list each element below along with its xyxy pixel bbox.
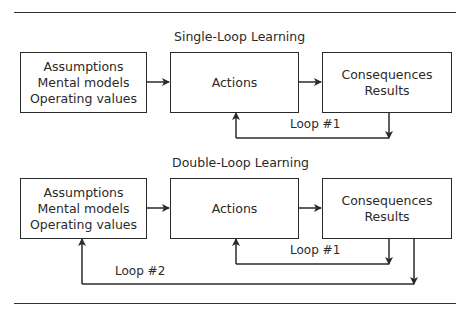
double-loop1-label: Loop #1 — [290, 243, 340, 257]
double-loop2-label: Loop #2 — [115, 264, 165, 278]
box-line: Operating values — [30, 217, 137, 233]
box-line: Results — [364, 83, 409, 99]
single-assumptions-box: Assumptions Mental models Operating valu… — [20, 52, 147, 113]
double-consequences-box: Consequences Results — [322, 178, 452, 239]
double-loop-title: Double-Loop Learning — [172, 155, 309, 170]
box-line: Operating values — [30, 91, 137, 107]
box-line: Results — [364, 209, 409, 225]
box-line: Actions — [212, 201, 258, 217]
box-line: Actions — [212, 75, 258, 91]
box-line: Mental models — [38, 75, 130, 91]
single-actions-box: Actions — [170, 52, 299, 113]
single-consequences-box: Consequences Results — [322, 52, 452, 113]
box-line: Consequences — [341, 67, 432, 83]
box-line: Assumptions — [43, 185, 123, 201]
single-loop-title: Single-Loop Learning — [174, 29, 305, 44]
box-line: Assumptions — [43, 59, 123, 75]
double-actions-box: Actions — [170, 178, 299, 239]
double-assumptions-box: Assumptions Mental models Operating valu… — [20, 178, 147, 239]
box-line: Consequences — [341, 193, 432, 209]
box-line: Mental models — [38, 201, 130, 217]
single-loop1-label: Loop #1 — [290, 117, 340, 131]
